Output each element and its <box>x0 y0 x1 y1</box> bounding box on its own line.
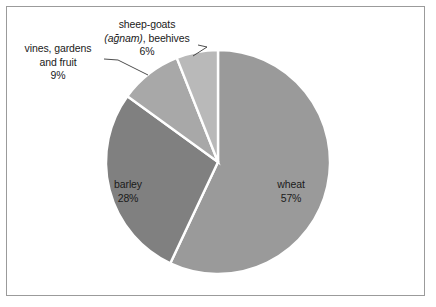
pie-label-sheep-goats-line2-rest: , beehives <box>143 32 190 44</box>
pie-label-wheat-value: 57% <box>263 192 319 206</box>
pie-label-vines-line1: vines, gardens <box>6 42 110 56</box>
pie-label-barley-value: 28% <box>100 192 156 206</box>
pie-label-vines-line2: and fruit <box>6 56 110 70</box>
pie-label-wheat-name: wheat <box>263 178 319 192</box>
pie-label-wheat: wheat 57% <box>263 178 319 205</box>
pie-label-sheep-goats-term: (ağnam) <box>104 32 142 44</box>
leader-line-vines <box>104 59 148 75</box>
pie-label-vines-value: 9% <box>6 69 110 83</box>
pie-label-vines: vines, gardens and fruit 9% <box>6 42 110 83</box>
pie-label-barley-name: barley <box>100 178 156 192</box>
pie-label-sheep-goats-line1: sheep-goats <box>88 18 206 32</box>
pie-chart-figure: sheep-goats (ağnam), beehives 6% vines, … <box>0 0 436 307</box>
pie-label-barley: barley 28% <box>100 178 156 205</box>
